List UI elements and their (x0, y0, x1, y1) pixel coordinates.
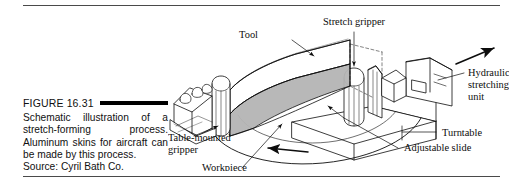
source-name: Cyril Bath Co. (61, 161, 124, 172)
figure-rule-bar (100, 101, 168, 105)
label-hydraulic-unit-line1: Hydraulic (468, 67, 509, 78)
caption-body-text: Schematic illustration of a stretch-form… (23, 112, 168, 161)
caption-header: FIGURE 16.31 (23, 96, 168, 109)
stretch-forming-illustration: Tool Stretch gripper Hydraulic stretchin… (168, 8, 509, 171)
label-table-gripper-line2: gripper (168, 144, 199, 155)
label-adjustable-slide: Adjustable slide (404, 142, 472, 153)
bottom-divider-rule (23, 176, 500, 177)
label-hydraulic-unit-line2: stretching (468, 79, 509, 90)
source-label: Source: (23, 161, 58, 172)
label-tool: Tool (239, 29, 258, 40)
label-turntable: Turntable (442, 127, 482, 138)
stretch-direction-arrow (456, 48, 494, 64)
top-divider-rule (23, 5, 500, 6)
figure-caption: FIGURE 16.31 Schematic illustration of a… (23, 96, 168, 173)
caption-source-line: Source: Cyril Bath Co. (23, 161, 168, 173)
figure-number: FIGURE 16.31 (23, 97, 94, 109)
label-stretch-gripper: Stretch gripper (323, 16, 386, 27)
label-hydraulic-unit-line3: unit (468, 91, 484, 102)
figure-page: FIGURE 16.31 Schematic illustration of a… (0, 0, 509, 183)
label-workpiece: Workpiece (202, 162, 247, 171)
label-table-gripper-line1: Table-mounted (168, 132, 232, 143)
rotation-direction-arrow (268, 148, 308, 152)
